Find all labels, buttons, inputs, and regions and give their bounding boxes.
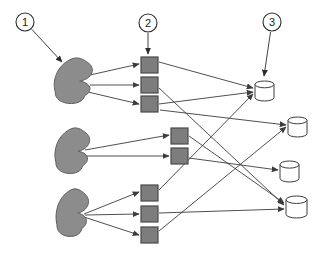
link-node-3-to-store-2: [160, 110, 286, 125]
node-5-box: [171, 148, 188, 164]
node-6-box: [141, 185, 158, 201]
store-4-icon: [286, 196, 307, 218]
store-1-icon: [255, 81, 274, 101]
callout-3: 3: [263, 13, 281, 76]
link-source-1-to-node-3: [88, 92, 139, 104]
source-blob-3-icon: [56, 189, 89, 237]
link-source-1-to-node-1: [90, 64, 139, 75]
node-2-box: [141, 77, 158, 93]
callout-2: 2: [139, 14, 157, 54]
node-3-box: [141, 96, 158, 112]
source-blob-1-icon: [54, 58, 92, 104]
store-shapes: [255, 81, 307, 218]
callout-1-label: 1: [22, 16, 28, 28]
callout-1: 1: [16, 13, 62, 62]
source-blob-2-icon: [55, 128, 90, 174]
callout-1-leader-line: [32, 29, 62, 62]
node-4-box: [171, 128, 188, 144]
diagram-canvas: 123: [0, 0, 326, 253]
node-1-box: [141, 57, 158, 73]
callout-3-label: 3: [269, 16, 275, 28]
link-node-5-to-store-3: [189, 158, 278, 170]
store-3-icon: [280, 161, 299, 182]
link-source-3-to-node-6: [84, 192, 139, 214]
link-node-3-to-store-1: [159, 92, 253, 104]
source-shapes: [54, 58, 92, 237]
node-8-box: [141, 227, 158, 243]
link-node-2-to-store-4: [159, 88, 284, 205]
node-shapes: [141, 57, 188, 243]
node-7-box: [141, 206, 158, 222]
diagram-svg: 123: [0, 0, 326, 253]
link-source-2-to-node-4: [85, 135, 169, 150]
callout-2-label: 2: [145, 17, 151, 29]
link-source-3-to-node-8: [84, 217, 139, 235]
callout-3-leader-line: [264, 32, 271, 76]
store-2-icon: [288, 117, 307, 137]
link-node-4-to-store-4: [189, 136, 284, 203]
link-node-1-to-store-1: [159, 62, 253, 88]
link-source-3-to-node-7: [85, 214, 139, 215]
link-node-7-to-store-4: [159, 209, 284, 213]
